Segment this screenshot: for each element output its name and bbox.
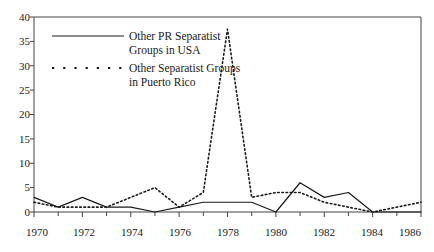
legend-entry-2-line-2: in Puerto Rico (129, 76, 195, 89)
x-tick-label-1984: 1984 (352, 226, 392, 238)
y-tick-label-35: 35 (8, 35, 30, 47)
legend-entry-2-line-1: Other Separatist Groups (129, 62, 240, 75)
data-series-line-2 (34, 29, 421, 212)
y-tick-label-0: 0 (8, 206, 30, 218)
y-tick-label-30: 30 (8, 60, 30, 72)
x-tick-label-1970: 1970 (17, 226, 57, 238)
y-tick-label-15: 15 (8, 133, 30, 145)
y-tick-label-5: 5 (8, 181, 30, 193)
x-tick-label-1972: 1972 (64, 226, 104, 238)
x-tick-label-1976: 1976 (160, 226, 200, 238)
plot-frame (34, 17, 421, 212)
x-tick-label-1978: 1978 (208, 226, 248, 238)
chart-container: 40 35 30 25 20 15 10 5 0 1970 1972 1974 … (0, 0, 434, 252)
x-tick-label-1986: 1986 (390, 226, 430, 238)
x-tick-label-1980: 1980 (256, 226, 296, 238)
legend-entry-1-line-1: Other PR Separatist (129, 30, 220, 43)
y-tick-label-20: 20 (8, 108, 30, 120)
y-tick-label-10: 10 (8, 157, 30, 169)
y-tick-label-25: 25 (8, 84, 30, 96)
x-tick-label-1974: 1974 (112, 226, 152, 238)
y-tick-label-40: 40 (8, 11, 30, 23)
x-tick-label-1982: 1982 (304, 226, 344, 238)
legend-entry-1-line-2: Groups in USA (129, 44, 201, 57)
